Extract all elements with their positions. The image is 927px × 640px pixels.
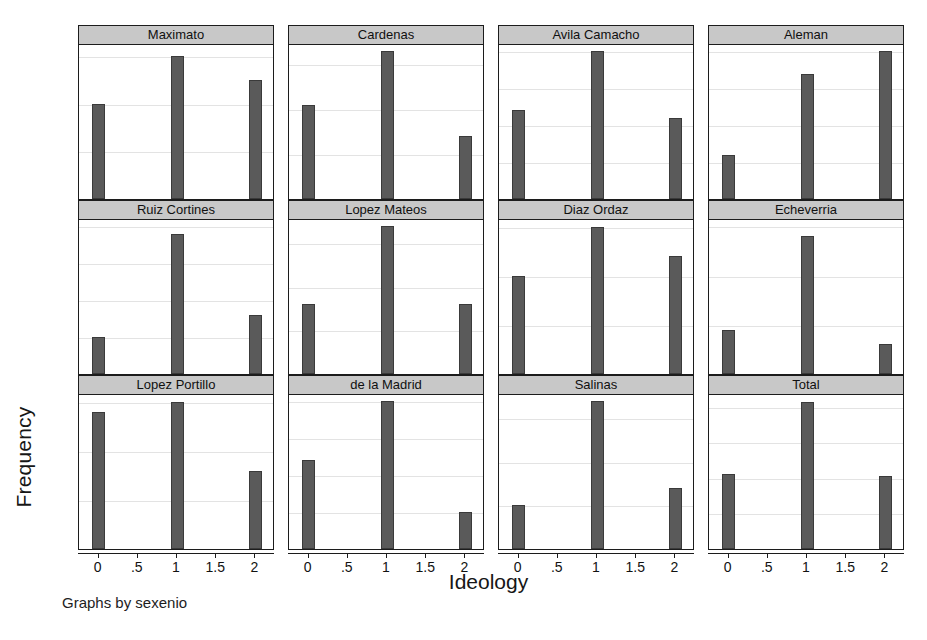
bar xyxy=(92,412,105,549)
panel-avila-camacho: Avila Camacho05101520 xyxy=(498,25,694,200)
bar xyxy=(171,402,184,549)
x-tick-mark xyxy=(806,553,807,558)
plot-area: 05101520 xyxy=(288,395,484,550)
y-tick-mark xyxy=(708,126,709,127)
bar xyxy=(381,226,394,374)
bar xyxy=(722,155,735,199)
x-tick-mark xyxy=(728,553,729,558)
bar xyxy=(591,51,604,199)
bar xyxy=(801,236,814,374)
bar xyxy=(249,315,262,374)
y-tick-mark xyxy=(498,89,499,90)
x-tick-mark xyxy=(425,553,426,558)
bar xyxy=(801,74,814,199)
y-tick-mark xyxy=(78,227,79,228)
y-tick-mark xyxy=(708,277,709,278)
y-tick-text: 5 xyxy=(288,510,289,517)
panel-lopez-mateos: Lopez Mateos051015 xyxy=(288,200,484,375)
x-axis: 0.511.52 xyxy=(708,553,904,571)
x-tick-mark xyxy=(596,553,597,558)
panel-title: Echeverria xyxy=(708,200,904,220)
bar xyxy=(879,344,892,374)
y-tick-mark xyxy=(288,65,289,66)
y-tick-mark xyxy=(708,227,709,228)
figure-canvas: Frequency Maximato0246Cardenas0102030Avi… xyxy=(0,0,927,640)
y-tick-mark xyxy=(498,126,499,127)
panel-title: Cardenas xyxy=(288,25,484,45)
panel-title: Aleman xyxy=(708,25,904,45)
bar xyxy=(722,330,735,374)
y-tick-text: 0 xyxy=(498,547,499,550)
y-tick-text: 5 xyxy=(288,328,289,335)
x-axis: 0.511.52 xyxy=(498,553,694,571)
x-axis: 0.511.52 xyxy=(78,553,274,571)
y-tick-mark xyxy=(708,89,709,90)
y-tick-mark xyxy=(708,514,709,515)
x-tick-mark xyxy=(308,553,309,558)
panel-lopez-portillo: Lopez Portillo0510150.511.52 xyxy=(78,375,274,576)
bar xyxy=(722,474,735,549)
x-tick-mark xyxy=(557,553,558,558)
y-tick-mark xyxy=(708,443,709,444)
y-tick-mark xyxy=(498,277,499,278)
y-tick-mark xyxy=(288,155,289,156)
bar xyxy=(459,304,472,374)
gridline xyxy=(709,52,903,53)
bar xyxy=(302,460,315,549)
y-tick-text: 4 xyxy=(78,101,79,108)
bar xyxy=(591,401,604,549)
bar xyxy=(92,104,105,199)
bar xyxy=(669,256,682,374)
panel-salinas: Salinas0510150.511.52 xyxy=(498,375,694,576)
panel-cardenas: Cardenas0102030 xyxy=(288,25,484,200)
panel-ruiz-cortines: Ruiz Cortines05101520 xyxy=(78,200,274,375)
plot-area: 051015 xyxy=(498,395,694,550)
bar xyxy=(249,80,262,199)
y-tick-mark xyxy=(78,403,79,404)
panel-title: Avila Camacho xyxy=(498,25,694,45)
plot-area: 0102030 xyxy=(288,45,484,200)
figure-note: Graphs by sexenio xyxy=(62,594,187,611)
bar xyxy=(512,276,525,374)
y-tick-text: 5 xyxy=(498,323,499,330)
x-tick-mark xyxy=(176,553,177,558)
bar xyxy=(171,234,184,374)
y-tick-mark xyxy=(288,288,289,289)
plot-area: 051015 xyxy=(498,220,694,375)
bar xyxy=(381,401,394,549)
panel-grid: Maximato0246Cardenas0102030Avila Camacho… xyxy=(0,0,927,570)
panel-maximato: Maximato0246 xyxy=(78,25,274,200)
y-tick-mark xyxy=(708,326,709,327)
y-tick-mark xyxy=(288,439,289,440)
plot-area: 050100150200 xyxy=(708,395,904,550)
y-tick-mark xyxy=(498,463,499,464)
y-tick-text: 0 xyxy=(288,547,289,550)
bar xyxy=(512,505,525,549)
x-tick-mark xyxy=(635,553,636,558)
panel-title: Total xyxy=(708,375,904,395)
y-tick-mark xyxy=(498,52,499,53)
bar xyxy=(249,471,262,549)
y-tick-text: 5 xyxy=(708,160,709,167)
y-tick-mark xyxy=(288,476,289,477)
panel-title: Lopez Mateos xyxy=(288,200,484,220)
panel-title: Diaz Ordaz xyxy=(498,200,694,220)
x-tick-mark xyxy=(347,553,348,558)
plot-area: 05101520 xyxy=(708,45,904,200)
bar xyxy=(302,304,315,374)
panel-de-la-madrid: de la Madrid051015200.511.52 xyxy=(288,375,484,576)
plot-area: 0246 xyxy=(78,45,274,200)
gridline xyxy=(709,227,903,228)
bar xyxy=(591,227,604,374)
panel-title: Maximato xyxy=(78,25,274,45)
y-tick-mark xyxy=(498,419,499,420)
y-tick-text: 0 xyxy=(78,547,79,550)
bar xyxy=(879,51,892,199)
x-tick-mark xyxy=(767,553,768,558)
bar xyxy=(92,337,105,374)
x-tick-mark xyxy=(386,553,387,558)
y-tick-text: 5 xyxy=(78,498,79,505)
x-axis-label-text: Ideology xyxy=(449,570,528,594)
y-tick-text: 2 xyxy=(78,149,79,156)
y-tick-mark xyxy=(78,452,79,453)
